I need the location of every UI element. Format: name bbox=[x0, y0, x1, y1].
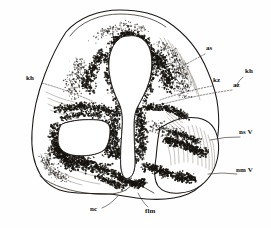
label-nm-v: nm V bbox=[236, 166, 253, 174]
histological-section-drawing bbox=[0, 0, 271, 228]
label-kh-right: kh bbox=[245, 67, 253, 75]
label-flm: flm bbox=[145, 207, 155, 215]
label-az: az bbox=[233, 81, 240, 89]
label-kz: kz bbox=[213, 76, 220, 84]
label-kh-left: kh bbox=[26, 74, 34, 82]
figure-container: as kz az kh kh ns V nm V nc flm bbox=[0, 0, 271, 228]
label-nc: nc bbox=[90, 205, 97, 213]
label-as: as bbox=[206, 44, 212, 52]
label-ns-v: ns V bbox=[239, 128, 253, 136]
